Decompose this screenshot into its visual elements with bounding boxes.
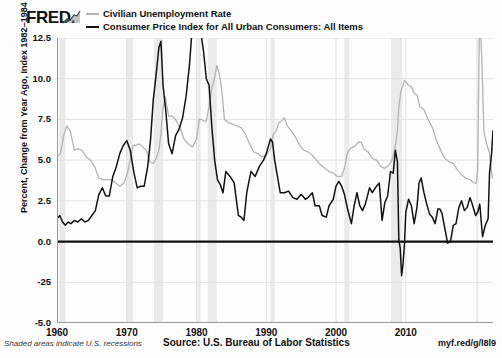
- y-tick-label: 0.0: [7, 236, 51, 247]
- plot-area[interactable]: [57, 38, 493, 323]
- legend-item-label: Consumer Price Index for All Urban Consu…: [103, 21, 363, 32]
- source-label: Source: U.S. Bureau of Labor Statistics: [163, 337, 350, 348]
- rising-line-icon: [62, 10, 81, 24]
- x-tick-label: 1970: [102, 327, 152, 338]
- y-tick-label: -25: [7, 276, 51, 287]
- y-tick-label: 10.0: [7, 73, 51, 84]
- line-swatch-icon: [86, 26, 99, 28]
- y-tick-label: 12.5: [7, 32, 51, 43]
- y-tick-label: 5.0: [7, 154, 51, 165]
- legend-item-unemployment[interactable]: Civilian Unemployment Rate: [86, 7, 363, 20]
- x-tick-label: 2010: [381, 327, 431, 338]
- x-tick-label: 1960: [32, 327, 82, 338]
- y-tick-label: 2.5: [7, 195, 51, 206]
- line-swatch-icon: [86, 13, 99, 15]
- legend-item-label: Civilian Unemployment Rate: [103, 8, 231, 19]
- y-tick-label: 7.5: [7, 113, 51, 124]
- legend-item-cpi[interactable]: Consumer Price Index for All Urban Consu…: [86, 20, 363, 33]
- chart-url[interactable]: myf.red/g/l8l9: [438, 338, 496, 348]
- legend: Civilian Unemployment Rate Consumer Pric…: [86, 7, 363, 33]
- recession-note: Shaded areas indicate U.S. recessions: [4, 339, 142, 348]
- fred-chart: FRED. Civilian Unemployment Rate Consume…: [0, 0, 502, 358]
